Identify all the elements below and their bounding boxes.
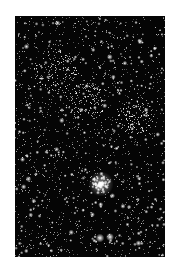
star-field-image xyxy=(15,16,165,257)
star-field-canvas xyxy=(15,16,165,257)
